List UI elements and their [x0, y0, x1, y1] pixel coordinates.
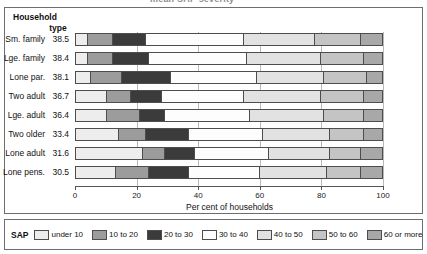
legend-swatch-icon — [312, 230, 327, 240]
bar-segment — [244, 34, 314, 45]
stacked-bar — [75, 147, 383, 160]
row-category-label: Sm. family — [5, 34, 45, 44]
row-label: Two older33.4 — [8, 129, 69, 139]
bar-segment — [250, 110, 323, 121]
chart-row: Two adult36.7 — [75, 90, 383, 103]
category-axis-header-line1: Household — [11, 12, 99, 23]
bar-segment — [364, 91, 382, 102]
bar-segment — [146, 34, 244, 45]
bar-segment — [361, 148, 382, 159]
x-tick — [321, 186, 322, 190]
bars-container: Sm. family38.5Lge. family38.4Lone par.38… — [75, 32, 383, 186]
plot-area: Sm. family38.5Lge. family38.4Lone par.38… — [75, 32, 399, 186]
x-tick — [260, 186, 261, 190]
bar-segment — [315, 34, 361, 45]
legend-swatch-icon — [202, 230, 217, 240]
bar-segment — [162, 91, 245, 102]
row-label: Lge. adult36.4 — [8, 110, 69, 120]
legend-item[interactable]: under 10 — [34, 230, 83, 240]
bar-segment — [171, 72, 257, 83]
row-category-label: Lone pens. — [3, 167, 45, 177]
legend-item-label: 60 or more — [384, 230, 423, 239]
bar-segment — [189, 129, 262, 140]
bar-segment — [324, 110, 364, 121]
row-label: Lone pens.30.5 — [3, 167, 69, 177]
x-tick-label: 40 — [194, 191, 203, 200]
stacked-bar — [75, 90, 383, 103]
x-tick — [383, 186, 384, 190]
bar-segment — [361, 34, 382, 45]
x-tick-label: 0 — [73, 191, 77, 200]
legend-swatch-icon — [34, 230, 49, 240]
bar-segment — [116, 167, 150, 178]
legend-swatch-icon — [367, 230, 382, 240]
row-category-label: Lone par. — [10, 72, 45, 82]
legend-item[interactable]: 20 to 30 — [147, 230, 193, 240]
row-category-label: Two older — [8, 129, 45, 139]
row-label: Lone adult31.6 — [5, 148, 69, 158]
row-mean-sap-value: 33.4 — [49, 129, 69, 139]
stacked-bar — [75, 71, 383, 84]
bar-segment — [107, 110, 141, 121]
bar-segment — [91, 72, 122, 83]
legend-item[interactable]: 40 to 50 — [257, 230, 303, 240]
cut-off-title-strip: mean SAP severity — [0, 0, 427, 7]
stacked-bar — [75, 166, 383, 179]
stacked-bar — [75, 52, 383, 65]
legend-item-label: 30 to 40 — [219, 230, 248, 239]
bar-segment — [327, 167, 361, 178]
row-label: Lone par.38.1 — [10, 72, 69, 82]
legend-item[interactable]: 10 to 20 — [92, 230, 138, 240]
legend-swatch-icon — [257, 230, 272, 240]
row-mean-sap-value: 38.1 — [49, 72, 69, 82]
bar-segment — [76, 91, 107, 102]
bar-segment — [76, 53, 88, 64]
legend-item-label: 40 to 50 — [274, 230, 303, 239]
legend-swatch-icon — [92, 230, 107, 240]
bar-segment — [263, 129, 330, 140]
bar-segment — [76, 148, 143, 159]
legend-item-label: 50 to 60 — [329, 230, 358, 239]
bar-segment — [88, 53, 112, 64]
bar-segment — [321, 91, 364, 102]
bar-segment — [146, 129, 189, 140]
legend-swatch-icon — [147, 230, 162, 240]
bar-segment — [260, 167, 327, 178]
stacked-bar — [75, 128, 383, 141]
stacked-bar — [75, 33, 383, 46]
bar-segment — [165, 110, 251, 121]
bar-segment — [321, 53, 364, 64]
row-mean-sap-value: 36.4 — [49, 110, 69, 120]
bar-segment — [149, 167, 189, 178]
chart-running-title: mean SAP severity — [150, 0, 234, 4]
bar-segment — [88, 34, 112, 45]
x-axis-line — [75, 186, 384, 187]
row-label: Sm. family38.5 — [5, 34, 69, 44]
row-mean-sap-value: 38.4 — [49, 53, 69, 63]
bar-segment — [143, 148, 164, 159]
stacked-bar — [75, 109, 383, 122]
bar-segment — [364, 110, 382, 121]
bar-segment — [140, 110, 164, 121]
bar-segment — [367, 72, 382, 83]
legend-item-label: under 10 — [51, 230, 83, 239]
row-category-label: Lone adult — [5, 148, 45, 158]
row-mean-sap-value: 30.5 — [49, 167, 69, 177]
bar-segment — [76, 129, 119, 140]
row-mean-sap-value: 38.5 — [49, 34, 69, 44]
bar-segment — [113, 34, 147, 45]
x-tick-label: 80 — [317, 191, 326, 200]
chart-row: Sm. family38.5 — [75, 33, 383, 46]
chart-row: Two older33.4 — [75, 128, 383, 141]
legend-item[interactable]: 50 to 60 — [312, 230, 358, 240]
legend-panel: SAP under 1010 to 2020 to 3030 to 4040 t… — [4, 219, 423, 250]
chart-row: Lge. adult36.4 — [75, 109, 383, 122]
category-axis-header: Household type — [11, 12, 99, 33]
legend-row: SAP under 1010 to 2020 to 3030 to 4040 t… — [11, 228, 427, 241]
chart-panel: Household type Sm. family38.5Lge. family… — [4, 7, 423, 214]
legend-item[interactable]: 60 or more — [367, 230, 423, 240]
legend-item[interactable]: 30 to 40 — [202, 230, 248, 240]
bar-segment — [244, 91, 321, 102]
bar-segment — [330, 129, 364, 140]
bar-segment — [364, 53, 382, 64]
